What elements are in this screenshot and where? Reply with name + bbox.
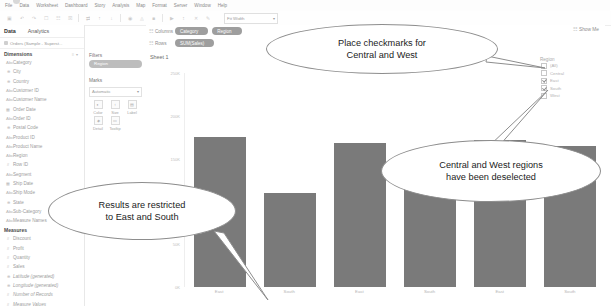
callout-text: Results are restrictedto East and South [89,199,196,224]
callout-text: Place checkmarks forCentral and West [328,37,436,62]
callout-results-restricted: Results are restrictedto East and South [48,182,236,240]
callout-deselected: Central and West regionshave been desele… [381,140,601,202]
callout-place-checkmarks: Place checkmarks forCentral and West [266,24,498,74]
callout-text: Central and West regionshave been desele… [429,159,553,184]
